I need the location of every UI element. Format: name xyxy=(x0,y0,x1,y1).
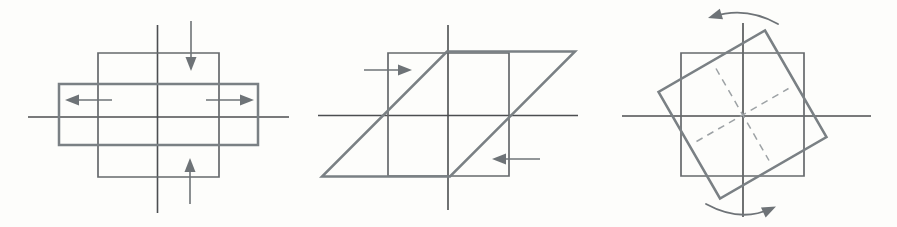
rotation-arrow-top-arc xyxy=(713,13,778,24)
rotation-arrow-top-head xyxy=(708,9,723,20)
panel-rigid-rotation xyxy=(622,9,871,218)
diagram-svg xyxy=(0,0,897,227)
rotation-arrow-bottom-head xyxy=(761,207,776,218)
rotation-arrow-top xyxy=(708,9,778,24)
extend-left-arrow xyxy=(65,95,112,106)
rotation-arrow-bottom xyxy=(706,204,776,217)
panel-coaxial-flattening xyxy=(28,21,289,213)
rotation-arrow-bottom-arc xyxy=(706,204,771,215)
extend-right-arrow-head xyxy=(240,95,254,106)
figure-strain-diagrams xyxy=(0,0,897,227)
shear-left-arrow xyxy=(492,154,540,165)
compress-down-arrow-head xyxy=(186,57,197,71)
extend-left-arrow-head xyxy=(65,95,79,106)
panel-simple-shear xyxy=(318,25,578,210)
compress-up-arrow-head xyxy=(185,158,196,172)
compress-up-arrow xyxy=(185,158,196,204)
shear-left-arrow-head xyxy=(492,154,506,165)
deformed-rectangle xyxy=(59,84,258,145)
shear-right-arrow-head xyxy=(398,65,412,76)
original-square xyxy=(98,53,219,177)
compress-down-arrow xyxy=(186,21,197,71)
extend-right-arrow xyxy=(206,95,254,106)
